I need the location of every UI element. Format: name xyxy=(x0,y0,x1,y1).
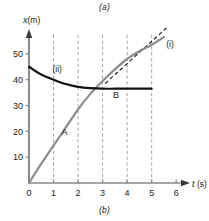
annotation-A: A xyxy=(62,127,68,137)
x-tick-label-4: 4 xyxy=(125,188,130,198)
y-tick-label-40: 40 xyxy=(13,75,23,85)
curve-ii-black xyxy=(29,67,152,89)
data-series xyxy=(29,28,166,183)
x-tick-label-0: 0 xyxy=(26,188,31,198)
position-time-graph: 1020304050 0123456 x(m) t (s) (i)(ii)AB xyxy=(0,0,209,221)
figure-caption-a: (a) xyxy=(0,2,209,12)
tangent-line-dashed xyxy=(105,28,166,84)
y-tick-label-30: 30 xyxy=(13,101,23,111)
figure-container: (a) 1020304050 0123456 x(m) t (s) xyxy=(0,0,209,221)
x-tick-label-1: 1 xyxy=(51,188,56,198)
annotation-B: B xyxy=(113,90,119,100)
y-axis-label: x(m) xyxy=(22,15,40,25)
y-tick-label-50: 50 xyxy=(13,49,23,59)
x-axis-label: t (s) xyxy=(192,179,207,189)
x-tick-label-3: 3 xyxy=(100,188,105,198)
figure-caption-b: (b) xyxy=(0,205,209,215)
x-tick-label-5: 5 xyxy=(149,188,154,198)
gridlines-vertical xyxy=(54,33,152,183)
x-axis-tick-labels: 0123456 xyxy=(26,188,178,198)
x-tick-label-2: 2 xyxy=(76,188,81,198)
curve-i-gray xyxy=(29,37,164,183)
annotation-ii: (ii) xyxy=(52,64,62,74)
y-tick-label-20: 20 xyxy=(13,127,23,137)
y-tick-label-10: 10 xyxy=(13,152,23,162)
x-tick-label-6: 6 xyxy=(174,188,179,198)
annotation-i: (i) xyxy=(166,39,174,49)
y-axis-tick-labels: 1020304050 xyxy=(13,49,23,162)
y-axis-arrow xyxy=(26,29,32,38)
axes xyxy=(26,29,191,186)
x-axis-arrow xyxy=(181,180,190,186)
